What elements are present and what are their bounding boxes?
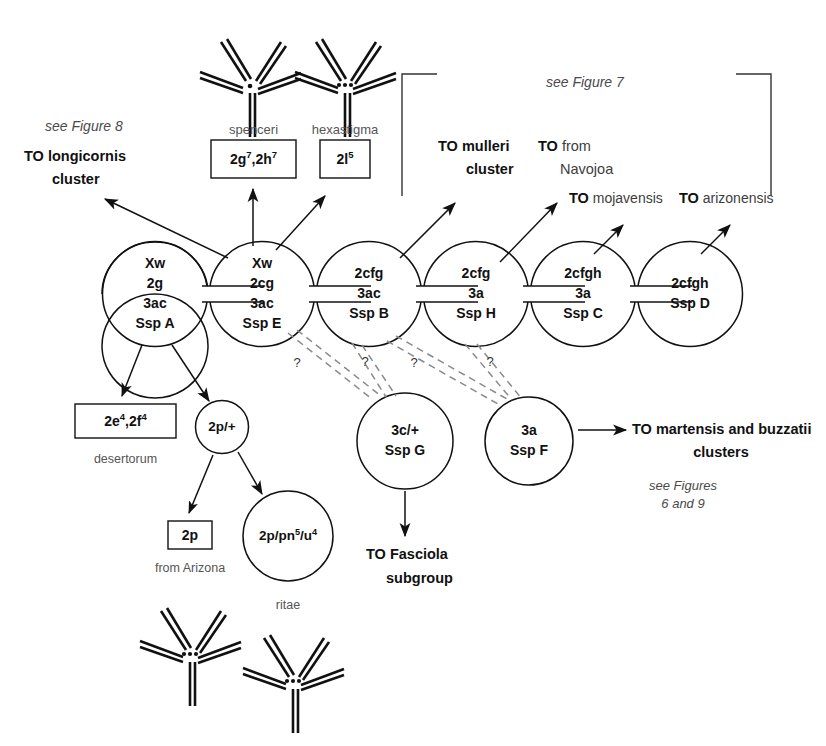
arrow-to-navojoa <box>500 203 557 262</box>
node-H-line2: 3a <box>456 284 496 304</box>
node-B-line3: Ssp B <box>349 304 389 324</box>
node-H-line3: Ssp H <box>456 304 496 324</box>
node-F-line2: Ssp F <box>510 441 548 461</box>
box-text-desertorum: 2e4,2f4 <box>104 413 147 429</box>
node-C-line2: 3a <box>563 284 603 304</box>
node-C-line1: 2cfgh <box>563 264 603 284</box>
arrow-2p-plus-to-arizona <box>189 455 213 513</box>
caption-arizona: from Arizona <box>155 561 225 576</box>
node-D-line1: 2cfgh <box>670 274 710 294</box>
dest-arizonensis-to: TO <box>679 190 699 206</box>
dest-mojavensis-name: mojavensis <box>593 190 663 206</box>
node-A-line4: Ssp A <box>135 314 174 334</box>
dest-mulleri-line1: TO mulleri <box>438 138 509 155</box>
diagram-vectors <box>0 0 826 746</box>
node-C-line3: Ssp C <box>563 304 603 324</box>
cross-ref-figure7: see Figure 7 <box>546 74 624 91</box>
node-label-A: Xw 2g 3ac Ssp A <box>135 254 174 334</box>
node-label-B: 2cfg 3ac Ssp B <box>349 264 389 324</box>
node-label-C: 2cfgh 3a Ssp C <box>563 264 603 324</box>
dest-mojavensis: TO mojavensis <box>569 190 663 207</box>
arrow-to-mojavensis <box>594 225 623 254</box>
dest-martensis-line2: clusters <box>693 444 749 461</box>
node-G-line1: 3c/+ <box>385 421 425 441</box>
node-E-line3: 3ac <box>243 294 282 314</box>
caption-desertorum: desertorum <box>94 452 157 467</box>
node-A-line3: 3ac <box>135 294 174 314</box>
node-B-line1: 2cfg <box>349 264 389 284</box>
arrow-A-to-desertorum <box>122 345 142 396</box>
box-text-hexastigma: 2l5 <box>337 151 354 167</box>
arrow-to-longicornis <box>105 199 228 258</box>
node-A-line1: Xw <box>135 254 174 274</box>
karyotype-arizona <box>140 608 241 706</box>
box-text-spenceri: 2g7,2h7 <box>230 151 277 167</box>
caption-spenceri: spenceri <box>229 122 278 137</box>
dashed-H-to-F-b <box>477 344 522 399</box>
cross-ref-figures69-line2: 6 and 9 <box>661 496 704 511</box>
dest-fasciola-line1: TO Fasciola <box>366 546 448 563</box>
node-label-2p-plus: 2p/+ <box>208 417 235 436</box>
karyotype-glyphs <box>140 39 396 733</box>
dest-navojoa-line1: TO from <box>538 138 591 155</box>
bracket-left <box>402 74 437 196</box>
arrow-2p-plus-to-ritae <box>238 452 262 494</box>
dest-navojoa-line2: Navojoa <box>560 161 613 178</box>
box-text-arizona: 2p <box>182 527 198 543</box>
node-label-D: 2cfgh Ssp D <box>670 274 710 314</box>
node-E-line4: Ssp E <box>243 314 282 334</box>
node-label-G: 3c/+ Ssp G <box>385 421 425 461</box>
arrow-to-arizonensis <box>701 225 730 254</box>
node-H-line1: 2cfg <box>456 264 496 284</box>
caption-ritae: ritae <box>276 598 300 613</box>
uncertainty-mark-3: ? <box>410 355 417 370</box>
node-2p-plus-line1: 2p/+ <box>208 417 235 436</box>
dest-longicornis-line2: cluster <box>52 171 100 188</box>
cross-ref-figures69-line1: see Figures <box>649 478 717 493</box>
dest-navojoa-to: TO <box>538 138 558 154</box>
dashed-B-to-G-a <box>352 343 386 397</box>
uncertainty-mark-4: ? <box>486 354 493 369</box>
dest-navojoa-from: from <box>562 138 591 154</box>
arrow-to-hexastigma <box>276 196 325 250</box>
node-ritae-line1: 2p/pn5/u4 <box>259 526 317 545</box>
karyotype-ritae <box>243 635 344 733</box>
node-E-line1: Xw <box>243 254 282 274</box>
dest-mojavensis-to: TO <box>569 190 589 206</box>
bracket-right <box>736 74 771 196</box>
dest-arizonensis-name: arizonensis <box>703 190 774 206</box>
node-label-E: Xw 2cg 3ac Ssp E <box>243 254 282 334</box>
dest-longicornis-line1: TO longicornis <box>24 148 126 165</box>
uncertainty-mark-2: ? <box>361 354 368 369</box>
node-D-line2: Ssp D <box>670 294 710 314</box>
node-G-line2: Ssp G <box>385 441 425 461</box>
node-F-line1: 3a <box>510 421 548 441</box>
node-E-line2: 2cg <box>243 274 282 294</box>
node-label-H: 2cfg 3a Ssp H <box>456 264 496 324</box>
dest-martensis-line1: TO martensis and buzzatii <box>632 421 811 438</box>
karyotype-boxes <box>75 140 370 549</box>
node-label-ritae: 2p/pn5/u4 <box>259 526 317 545</box>
node-A-line2: 2g <box>135 274 174 294</box>
node-B-line2: 3ac <box>349 284 389 304</box>
node-label-F: 3a Ssp F <box>510 421 548 461</box>
dashed-B-to-F-a <box>387 341 498 404</box>
figure-canvas: Xw 2g 3ac Ssp A Xw 2cg 3ac Ssp E 2cfg 3a… <box>0 0 826 746</box>
dest-mulleri-line2: cluster <box>466 161 514 178</box>
uncertainty-mark-1: ? <box>293 355 300 370</box>
caption-hexastigma: hexastigma <box>312 122 378 137</box>
cross-ref-figure8: see Figure 8 <box>45 118 123 135</box>
dest-fasciola-line2: subgroup <box>386 570 453 587</box>
dashed-H-to-F-a <box>465 344 512 400</box>
dest-arizonensis: TO arizonensis <box>679 190 774 207</box>
